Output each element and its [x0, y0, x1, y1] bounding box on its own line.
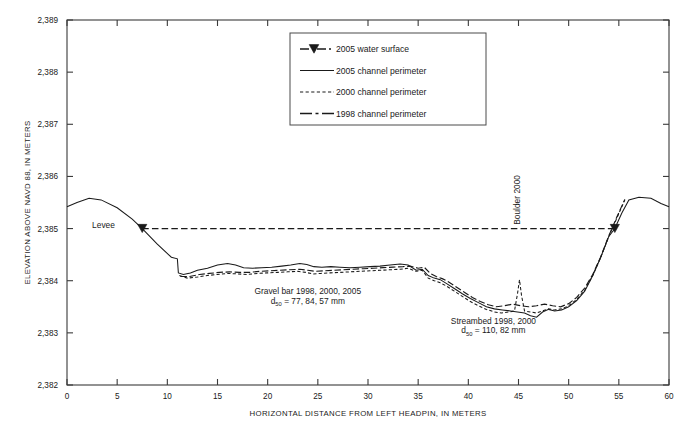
legend: 2005 water surface2005 channel perimeter…: [290, 33, 486, 125]
x-tick-label: 30: [363, 392, 373, 401]
series-1998-channel-perimeter: [180, 199, 624, 306]
legend-label: 2005 water surface: [336, 44, 409, 54]
streambed-label-line2: d50 = 110, 82 mm: [461, 325, 525, 336]
x-tick-label: 10: [163, 392, 173, 401]
x-axis-title: HORIZONTAL DISTANCE FROM LEFT HEADPIN, I…: [249, 409, 486, 418]
legend-label: 2005 channel perimeter: [336, 66, 426, 76]
legend-label: 2000 channel perimeter: [336, 87, 426, 97]
y-tick-label: 2,386: [38, 172, 59, 181]
series-2000-channel-perimeter: [179, 200, 624, 313]
y-tick-label: 2,388: [38, 68, 59, 77]
x-tick-label: 25: [313, 392, 323, 401]
annotations: LeveeBoulder 2000Gravel bar 1998, 2000, …: [92, 175, 536, 337]
x-tick-label: 55: [614, 392, 624, 401]
x-tick-label: 20: [263, 392, 273, 401]
x-tick-label: 50: [564, 392, 574, 401]
x-tick-label: 60: [664, 392, 674, 401]
y-tick-label: 2,384: [38, 277, 59, 286]
y-tick-label: 2,382: [38, 381, 59, 390]
y-tick-label: 2,387: [38, 120, 59, 129]
x-tick-label: 40: [464, 392, 474, 401]
legend-label: 1998 channel perimeter: [336, 109, 426, 119]
x-tick-label: 35: [414, 392, 424, 401]
y-axis-title: ELEVATION ABOVE NAVD 88, IN METERS: [23, 121, 32, 285]
gravel-bar-label-line2: d50 = 77, 84, 57 mm: [271, 296, 345, 307]
x-tick-label: 45: [514, 392, 524, 401]
x-tick-label: 15: [213, 392, 223, 401]
cross-section-chart-figure: 051015202530354045505560HORIZONTAL DISTA…: [0, 0, 685, 431]
boulder-label: Boulder 2000: [512, 175, 522, 225]
levee-label: Levee: [92, 220, 115, 230]
x-tick-label: 5: [115, 392, 120, 401]
y-tick-label: 2,385: [38, 225, 59, 234]
data-series-group: [67, 197, 669, 317]
y-tick-label: 2,389: [38, 16, 59, 25]
series-2005-channel-perimeter: [67, 197, 669, 317]
x-tick-label: 0: [65, 392, 70, 401]
chart-svg: 051015202530354045505560HORIZONTAL DISTA…: [0, 0, 685, 431]
y-tick-label: 2,383: [38, 329, 59, 338]
